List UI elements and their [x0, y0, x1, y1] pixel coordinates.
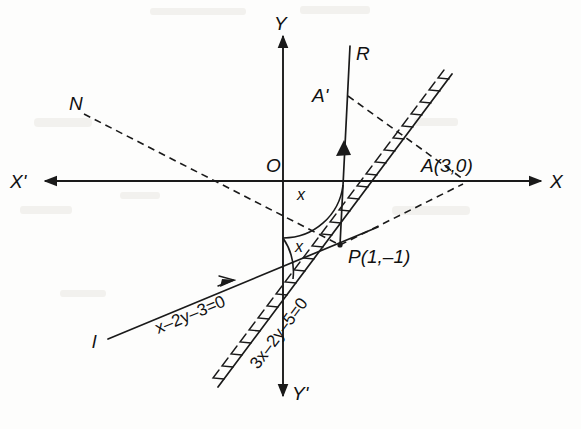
ray-n-label: N: [69, 93, 83, 114]
axis-label-x-positive: X: [549, 171, 564, 192]
mirror-line-3x-2y-5: [213, 70, 452, 387]
ray-n-dashed: [84, 114, 463, 245]
point-p-label: P(1,–1): [348, 246, 410, 267]
line-l-label: l: [92, 331, 97, 352]
point-a-label: A(3,0): [420, 155, 473, 176]
angle-arc-lower: [283, 238, 293, 279]
ray-r: [336, 46, 351, 245]
point-a-prime-label: A': [311, 85, 330, 106]
geometry-diagram: X' X Y Y' O A(3,0) P(1,–1) A' R N l x x …: [0, 0, 581, 429]
angle-arc-upper: [283, 185, 343, 238]
axis-label-y-negative: Y': [292, 383, 310, 404]
line-l: [108, 227, 378, 339]
angle-label-upper: x: [296, 186, 306, 203]
point-p-dot: [337, 242, 342, 247]
line-l-equation-label: x–2y–3=0: [152, 292, 228, 338]
angle-label-lower: x: [294, 238, 304, 255]
origin-label: O: [266, 155, 281, 176]
hatch-marks: [213, 70, 449, 379]
axis-label-y-positive: Y: [274, 13, 288, 34]
axis-label-x-negative: X': [9, 171, 28, 192]
ray-r-label: R: [356, 43, 370, 64]
figure-root: X' X Y Y' O A(3,0) P(1,–1) A' R N l x x …: [0, 0, 581, 429]
